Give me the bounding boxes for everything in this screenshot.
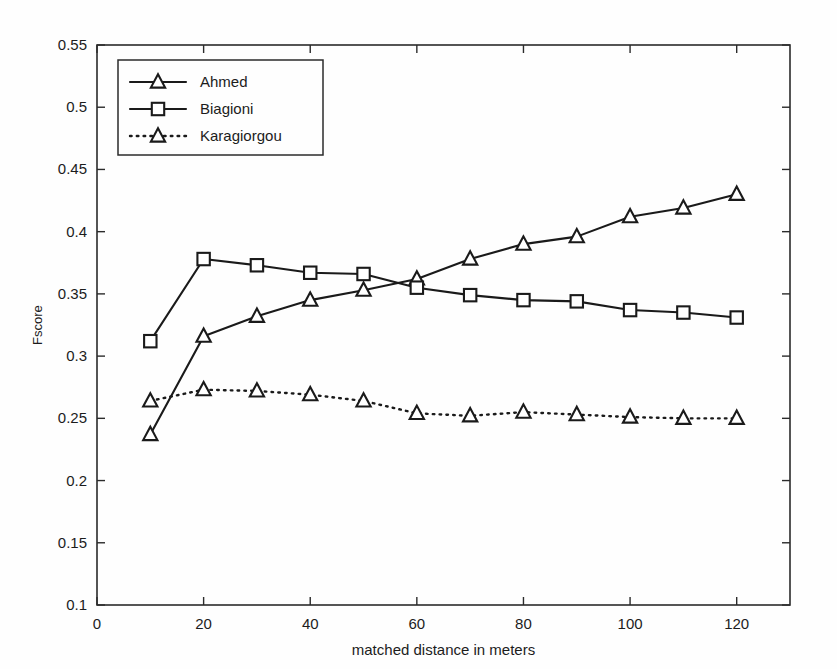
- marker-square: [357, 268, 369, 280]
- x-axis-title: matched distance in meters: [352, 641, 535, 658]
- marker-triangle: [151, 74, 165, 87]
- y-tick-label: 0.35: [58, 285, 87, 302]
- x-tick-label: 60: [409, 615, 426, 632]
- x-tick-label: 0: [93, 615, 101, 632]
- series-karagiorgou: [143, 382, 744, 424]
- legend-label-ahmed: Ahmed: [200, 73, 248, 90]
- figure-container: 0.10.150.20.250.30.350.40.450.50.5502040…: [0, 0, 837, 669]
- marker-square: [517, 294, 529, 306]
- marker-triangle: [730, 187, 744, 200]
- marker-square: [304, 267, 316, 279]
- marker-square: [730, 311, 742, 323]
- series-line-karagiorgou: [150, 390, 736, 419]
- series-biagioni: [144, 253, 743, 348]
- y-tick-label: 0.1: [66, 596, 87, 613]
- y-tick-label: 0.4: [66, 223, 87, 240]
- series-ahmed: [143, 187, 744, 441]
- marker-square: [144, 335, 156, 347]
- marker-triangle: [143, 393, 157, 406]
- marker-triangle: [151, 128, 165, 141]
- x-tick-label: 120: [724, 615, 749, 632]
- marker-square: [251, 259, 263, 271]
- chart-legend: AhmedBiagioniKaragiorgou: [118, 60, 323, 155]
- y-tick-label: 0.45: [58, 160, 87, 177]
- marker-square: [411, 281, 423, 293]
- marker-triangle: [570, 407, 584, 420]
- marker-square: [677, 306, 689, 318]
- axes: 0.10.150.20.250.30.350.40.450.50.5502040…: [58, 36, 790, 632]
- data-series: [143, 187, 744, 441]
- x-tick-label: 20: [195, 615, 212, 632]
- marker-triangle: [196, 382, 210, 395]
- y-tick-label: 0.15: [58, 534, 87, 551]
- fscore-line-chart: 0.10.150.20.250.30.350.40.450.50.5502040…: [0, 0, 837, 669]
- y-axis-title: Fscore: [30, 305, 45, 345]
- legend-label-biagioni: Biagioni: [200, 100, 253, 117]
- x-tick-label: 100: [618, 615, 643, 632]
- y-tick-label: 0.3: [66, 347, 87, 364]
- marker-square: [152, 103, 164, 115]
- marker-triangle: [516, 404, 530, 417]
- marker-square: [571, 295, 583, 307]
- x-tick-label: 80: [515, 615, 532, 632]
- series-line-biagioni: [150, 259, 736, 341]
- marker-square: [624, 304, 636, 316]
- y-tick-label: 0.55: [58, 36, 87, 53]
- x-tick-label: 40: [302, 615, 319, 632]
- y-tick-label: 0.5: [66, 98, 87, 115]
- y-tick-label: 0.2: [66, 472, 87, 489]
- marker-square: [197, 253, 209, 265]
- legend-label-karagiorgou: Karagiorgou: [200, 127, 282, 144]
- marker-triangle: [143, 427, 157, 440]
- series-line-ahmed: [150, 194, 736, 434]
- marker-square: [464, 289, 476, 301]
- y-tick-label: 0.25: [58, 409, 87, 426]
